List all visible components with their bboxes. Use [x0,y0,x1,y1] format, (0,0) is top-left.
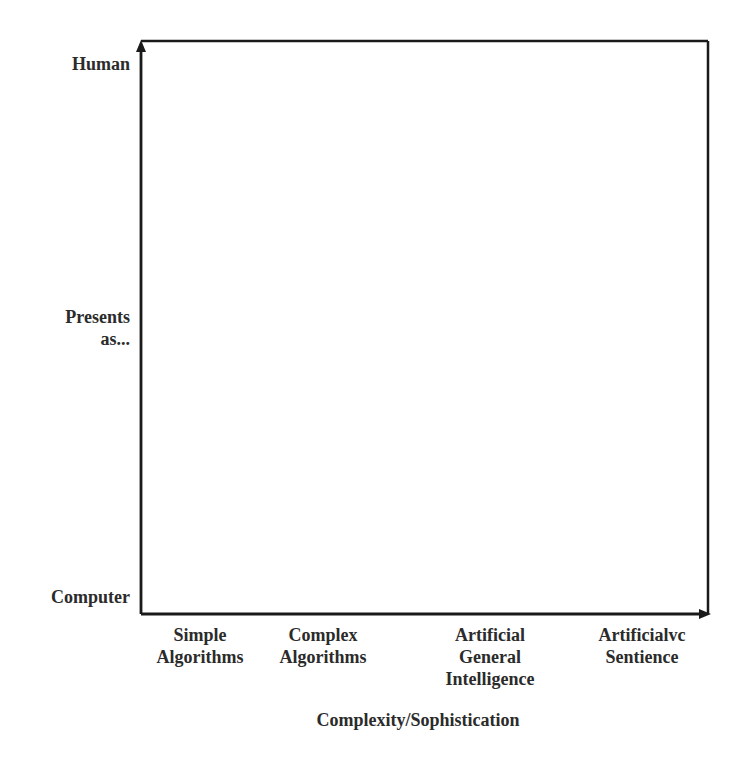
x-label-line: Artificialvc [567,624,717,646]
x-label-complex-algorithms: Complex Algorithms [248,624,398,668]
x-label-line: Intelligence [415,668,565,690]
y-label-presents-line2: as... [10,328,130,350]
y-label-presents-as: Presents as... [10,306,130,350]
y-label-human: Human [10,53,130,75]
x-label-line: Artificial [415,624,565,646]
x-label-line: Algorithms [248,646,398,668]
x-label-agi: Artificial General Intelligence [415,624,565,690]
x-label-line: General [415,646,565,668]
diagram-canvas: Human Presents as... Computer Simple Alg… [0,0,753,762]
x-axis-title: Complexity/Sophistication [268,709,568,731]
x-label-line: Complex [248,624,398,646]
x-label-line: Sentience [567,646,717,668]
x-label-sentience: Artificialvc Sentience [567,624,717,668]
y-label-computer: Computer [10,586,130,608]
y-label-presents-line1: Presents [10,306,130,328]
